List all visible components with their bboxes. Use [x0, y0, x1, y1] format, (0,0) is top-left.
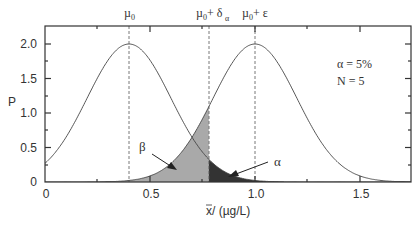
svg-text:µ: µ	[124, 6, 131, 20]
chart: 0 0.5 1.0 1.5 0 0.5 1.0 1.5 2.0 P x / (µ…	[0, 0, 420, 225]
beta-label: β	[139, 139, 146, 154]
plot-frame	[45, 26, 411, 182]
alpha-label: α	[274, 154, 281, 169]
alpha-shaded-region	[209, 159, 415, 182]
n-note: N = 5	[337, 74, 364, 88]
y-tick-label: 1.5	[20, 72, 37, 86]
alpha-arrow-icon	[228, 162, 268, 177]
svg-text:µ: µ	[196, 6, 203, 20]
svg-text:α: α	[225, 14, 230, 23]
y-tick-label: 0	[30, 175, 37, 189]
svg-text:+ ε: + ε	[253, 6, 268, 20]
x-axis-title: x / (µg/L)	[206, 204, 250, 218]
beta-shaded-region	[45, 107, 209, 182]
svg-text:/ (µg/L): / (µg/L)	[212, 204, 250, 218]
epsilon-label: µ 0 + ε	[242, 6, 268, 22]
y-tick-label: 0.5	[20, 141, 37, 155]
x-tick-label: 0	[43, 187, 50, 201]
y-tick-label: 2.0	[20, 37, 37, 51]
svg-text:+ δ: + δ	[207, 6, 223, 20]
x-tick-label: 0.5	[143, 187, 160, 201]
x-ticks	[97, 26, 360, 182]
alpha-note: α = 5%	[337, 57, 372, 71]
y-axis-title: P	[8, 95, 16, 109]
x-tick-label: 1.0	[248, 187, 265, 201]
delta-label: µ 0 + δ α	[196, 6, 230, 23]
svg-text:0: 0	[131, 13, 135, 22]
mu0-label: µ 0	[124, 6, 135, 22]
x-tick-label: 1.5	[353, 187, 370, 201]
svg-text:µ: µ	[242, 6, 249, 20]
y-tick-label: 1.0	[20, 106, 37, 120]
